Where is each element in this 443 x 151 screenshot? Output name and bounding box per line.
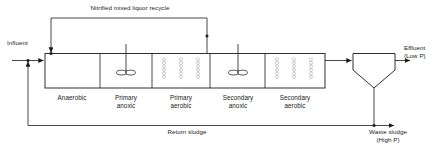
zone-label-primary-aerobic-line2: aerobic xyxy=(170,102,191,110)
effluent-label-line1: Effluent xyxy=(404,44,425,52)
junction-dot-return-influent xyxy=(27,59,30,62)
zone-label-secondary-aerobic-line1: Secondary xyxy=(280,94,311,102)
effluent-label-line2: (Low P) xyxy=(404,52,426,60)
zone-label-primary-aerobic-line1: Primary xyxy=(170,94,192,102)
zone-label-anaerobic: Anaerobic xyxy=(58,94,87,102)
junction-dot-waste-sludge xyxy=(373,124,376,127)
process-flow-diagram: Influent Nitrified mixed liquor recycle … xyxy=(0,0,443,151)
influent-label: Influent xyxy=(7,39,28,47)
waste-sludge-label-line2: (High P) xyxy=(376,136,399,144)
secondary-clarifier xyxy=(353,54,395,89)
reactor-tank-outline xyxy=(45,54,325,89)
junction-dot-recycle-tank xyxy=(50,52,53,55)
zone-label-secondary-anoxic-line1: Secondary xyxy=(223,94,254,102)
junction-dot-recycle-tap xyxy=(206,35,209,38)
zone-label-primary-anoxic-line2: anoxic xyxy=(117,102,136,110)
return-sludge-label: Return sludge xyxy=(167,128,206,136)
recycle-label: Nitrified mixed liquor recycle xyxy=(91,4,170,12)
zone-label-secondary-aerobic-line2: aerobic xyxy=(284,102,305,110)
zone-label-secondary-anoxic-line2: anoxic xyxy=(229,102,248,110)
recycle-line xyxy=(51,18,207,53)
waste-sludge-label-line1: Waste sludge xyxy=(369,128,407,136)
zone-label-primary-anoxic-line1: Primary xyxy=(115,94,137,102)
